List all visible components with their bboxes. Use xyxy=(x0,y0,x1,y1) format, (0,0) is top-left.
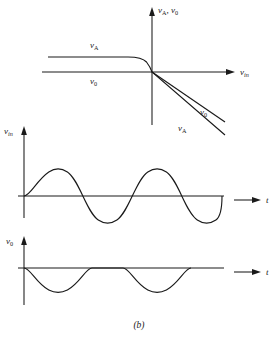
curve-label-va-flat: vA xyxy=(90,40,99,51)
curve-label-va-diagonal: vA xyxy=(178,123,187,134)
input-y-axis-label: vin xyxy=(4,126,13,137)
output-y-axis-label: v0 xyxy=(6,236,13,247)
input-y-axis-arrowhead xyxy=(21,126,27,135)
output-rectified-curve xyxy=(24,268,191,292)
input-waveform-panel: vin t xyxy=(4,126,269,223)
transfer-y-axis-arrowhead xyxy=(149,7,155,16)
output-t-arrow-head xyxy=(252,269,261,275)
curve-vo-transfer xyxy=(152,72,225,122)
figure-svg: vA, v0 vin vA v0 v0 vA xyxy=(0,0,278,340)
output-x-axis-label: t xyxy=(266,267,269,277)
input-x-axis-label: t xyxy=(266,195,269,205)
figure-caption: (b) xyxy=(133,320,144,331)
transfer-characteristic-panel: vA, v0 vin vA v0 v0 vA xyxy=(42,5,249,135)
output-y-axis-arrowhead xyxy=(21,236,27,245)
input-t-arrow-head xyxy=(252,197,261,203)
transfer-x-axis-arrowhead xyxy=(226,69,235,75)
curve-va-transfer xyxy=(48,57,225,135)
curve-label-vo-flat: v0 xyxy=(90,76,97,87)
figure-container: vA, v0 vin vA v0 v0 vA xyxy=(0,0,278,340)
output-waveform-panel: v0 t xyxy=(6,236,269,305)
transfer-y-axis-label: vA, v0 xyxy=(158,5,178,16)
transfer-x-axis-label: vin xyxy=(240,67,249,78)
